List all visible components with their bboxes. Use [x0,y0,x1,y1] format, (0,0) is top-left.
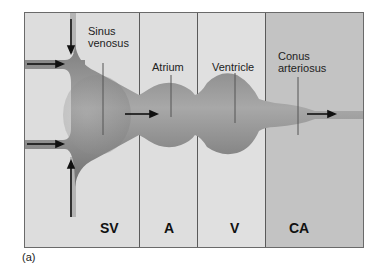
label-ventricle: Ventricle [212,61,254,73]
figure-caption: (a) [22,251,35,263]
heart-tube-shape [25,13,364,248]
label-atrium: Atrium [152,61,184,73]
label-line: venosus [88,37,129,49]
abbr-ca: CA [289,220,309,236]
label-line: arteriosus [278,62,326,74]
abbr-v: V [230,220,239,236]
label-line: Conus [278,50,326,62]
label-line: Sinus [88,25,129,37]
heart-diagram-frame: Sinus venosus Atrium Ventricle Conus art… [24,12,364,248]
label-conus-arteriosus: Conus arteriosus [278,50,326,74]
label-sinus-venosus: Sinus venosus [88,25,129,49]
abbr-a: A [164,220,174,236]
abbr-sv: SV [100,220,119,236]
